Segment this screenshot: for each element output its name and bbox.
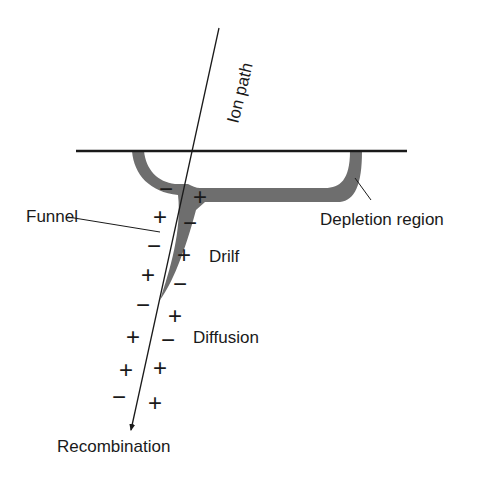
charge-minus: − [161,326,175,353]
charge-minus: − [183,209,197,236]
depletion-region-label: Depletion region [320,210,444,229]
ion-strike-diagram: Ion path Funnel Depletion region Drilf D… [0,0,500,483]
depletion-leader-line [355,178,371,200]
charges: − + + − − + + − − + + − + + − + [112,175,207,416]
charge-minus: − [112,383,126,410]
charge-plus: + [148,389,162,416]
charge-plus: + [168,302,182,329]
recombination-label: Recombination [57,437,170,456]
charge-plus: + [119,356,133,383]
charge-minus: − [173,270,187,297]
charge-minus: − [159,175,173,202]
funnel-leader-line [68,217,160,232]
funnel-label: Funnel [26,207,78,226]
charge-plus: + [126,323,140,350]
charge-plus: + [153,354,167,381]
charge-minus: − [136,291,150,318]
drift-label: Drilf [209,247,239,266]
charge-plus: + [193,183,207,210]
diffusion-label: Diffusion [193,328,259,347]
charge-plus: + [177,241,191,268]
charge-plus: + [141,261,155,288]
charge-minus: − [147,232,161,259]
charge-plus: + [153,203,167,230]
ion-path-label: Ion path [223,61,256,125]
